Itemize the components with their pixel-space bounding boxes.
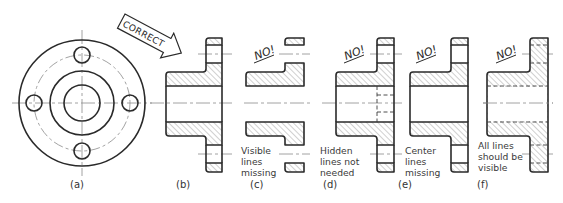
svg-text:missing: missing [405, 167, 440, 178]
svg-text:missing: missing [241, 167, 276, 178]
svg-text:visible: visible [478, 162, 508, 173]
note-d: Hidden lines not needed [320, 145, 360, 178]
note-e: Center lines missing [405, 145, 440, 178]
svg-text:should be: should be [478, 151, 523, 162]
svg-text:All lines: All lines [478, 140, 514, 151]
panel-label-c: (c) [250, 179, 263, 190]
svg-text:needed: needed [320, 167, 354, 178]
svg-text:lines: lines [241, 156, 263, 167]
no-badge-e: NO! [414, 43, 439, 63]
panel-label-e: (e) [398, 179, 412, 190]
no-badge-c: NO! [252, 43, 277, 63]
note-c: Visible lines missing [241, 145, 276, 178]
svg-text:lines not: lines not [320, 156, 360, 167]
panel-label-f: (f) [477, 179, 488, 190]
panel-b-correct-section [150, 38, 232, 172]
panel-a-front-view [12, 30, 152, 176]
panel-label-d: (d) [323, 179, 337, 190]
svg-text:lines: lines [405, 156, 427, 167]
no-badge-d: NO! [342, 43, 367, 63]
svg-text:Visible: Visible [241, 145, 271, 156]
svg-text:Center: Center [405, 145, 436, 156]
panel-label-a: (a) [70, 179, 84, 190]
section-view-figure: CORRECT NO! [0, 0, 563, 203]
panel-label-b: (b) [176, 179, 190, 190]
note-f: All lines should be visible [478, 140, 523, 173]
no-badge-f: NO! [494, 43, 519, 63]
svg-text:Hidden: Hidden [320, 145, 353, 156]
